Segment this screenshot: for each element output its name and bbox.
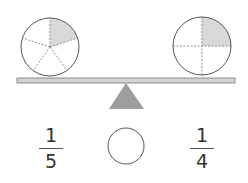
fraction-bar xyxy=(39,148,63,149)
comparison-blank-circle[interactable] xyxy=(108,128,144,164)
left-numerator: 1 xyxy=(39,125,63,145)
left-fraction-circle xyxy=(21,18,79,76)
right-fraction-circle xyxy=(173,17,231,75)
fraction-bar xyxy=(190,148,214,149)
left-fraction-label: 1 5 xyxy=(39,125,63,171)
right-denominator: 4 xyxy=(190,151,214,171)
right-numerator: 1 xyxy=(190,125,214,145)
balance-beam xyxy=(17,78,235,83)
left-denominator: 5 xyxy=(39,151,63,171)
fulcrum-triangle xyxy=(109,83,144,109)
right-fraction-label: 1 4 xyxy=(190,125,214,171)
